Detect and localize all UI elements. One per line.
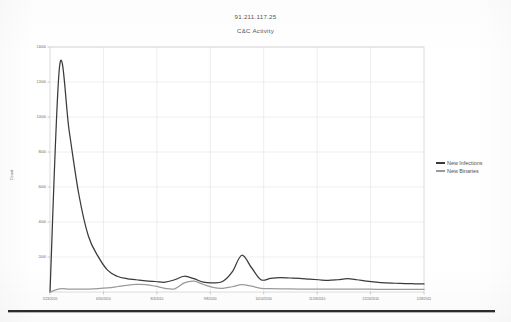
legend-swatch-icon (436, 162, 445, 165)
y-axis-ticks: 2000400060008000100001200014000 (37, 45, 50, 259)
y-tick-label: 14000 (37, 45, 47, 49)
legend-item[interactable]: New Infections (436, 159, 482, 167)
x-tick-label: 6/30/2010 (96, 297, 111, 301)
y-tick-label: 6000 (38, 185, 46, 189)
plot-frame (50, 47, 424, 292)
x-axis-ticks: 5/23/20106/30/20108/4/20109/8/201010/14/… (43, 292, 432, 301)
chart-legend: New InfectionsNew Binaries (436, 159, 482, 175)
y-tick-label: 8000 (38, 150, 46, 154)
chart-plot-area: 2000400060008000100001200014000 5/23/201… (0, 0, 511, 322)
legend-item-label: New Binaries (447, 168, 479, 174)
legend-item[interactable]: New Binaries (436, 167, 482, 175)
legend-item-label: New Infections (447, 160, 482, 166)
x-tick-label: 12/24/2010 (362, 297, 379, 301)
y-tick-label: 12000 (37, 80, 47, 84)
x-tick-label: 5/23/2010 (43, 297, 58, 301)
y-tick-label: 10000 (37, 115, 47, 119)
x-tick-label: 1/28/2011 (417, 297, 432, 301)
y-tick-label: 4000 (38, 220, 46, 224)
y-axis-title: Count (9, 169, 14, 181)
x-tick-label: 9/8/2010 (204, 297, 217, 301)
x-tick-label: 10/14/2010 (255, 297, 272, 301)
x-tick-label: 8/4/2010 (150, 297, 163, 301)
page-footer-rule-shadow (8, 312, 495, 313)
y-tick-label: 2000 (38, 255, 46, 259)
legend-swatch-icon (436, 170, 445, 173)
x-tick-label: 11/18/2010 (309, 297, 325, 301)
chart-svg: 2000400060008000100001200014000 5/23/201… (0, 0, 511, 322)
